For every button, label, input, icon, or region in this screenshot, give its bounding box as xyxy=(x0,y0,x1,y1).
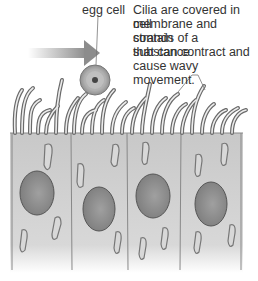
egg-leader-line xyxy=(96,16,98,65)
movement-arrow xyxy=(28,40,100,66)
desc-line: cause wavy movement. xyxy=(133,60,258,87)
desc-line: that can contract and xyxy=(133,46,250,60)
egg-cell xyxy=(80,65,110,95)
egg-cell-label: egg cell xyxy=(82,4,125,18)
